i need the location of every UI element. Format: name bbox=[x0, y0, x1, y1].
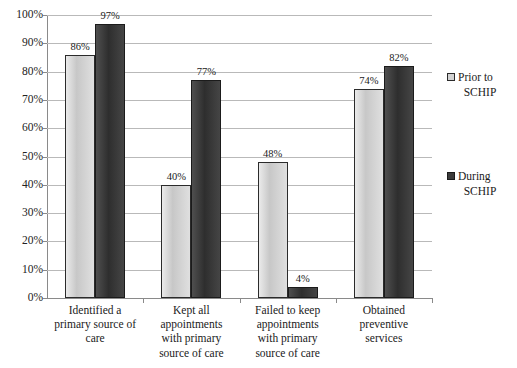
legend-label-line2: SCHIP bbox=[447, 85, 517, 100]
legend-label-line1: During bbox=[458, 170, 491, 182]
legend-label-line2: SCHIP bbox=[447, 184, 517, 199]
y-axis-tick bbox=[43, 270, 47, 271]
bar-during bbox=[191, 80, 221, 298]
y-axis-tick-label: 100% bbox=[3, 9, 43, 21]
y-axis-tick bbox=[43, 15, 47, 16]
legend-light-swatch-icon bbox=[447, 73, 455, 81]
y-axis-tick bbox=[43, 298, 47, 299]
plot-area: 86%97%40%77%48%4%74%82% bbox=[47, 15, 432, 298]
y-axis-tick bbox=[43, 43, 47, 44]
bar-value-label: 48% bbox=[250, 148, 296, 159]
y-axis-tick-label: 40% bbox=[3, 179, 43, 191]
x-axis-label-line: source of care bbox=[228, 346, 348, 360]
x-axis-label-line: preventive bbox=[324, 317, 444, 331]
legend-entry[interactable]: Prior toSCHIP bbox=[447, 70, 517, 99]
bar-chart: 0%10%20%30%40%50%60%70%80%90%100% 86%97%… bbox=[0, 0, 517, 368]
bar-prior bbox=[354, 89, 384, 298]
bar-prior bbox=[65, 55, 95, 298]
bar-value-label: 77% bbox=[183, 66, 229, 77]
y-axis-tick-label: 0% bbox=[3, 292, 43, 304]
x-axis-tick bbox=[432, 298, 433, 303]
y-axis-tick bbox=[43, 128, 47, 129]
y-axis-tick-label: 30% bbox=[3, 207, 43, 219]
legend-entry[interactable]: DuringSCHIP bbox=[447, 169, 517, 198]
bar-value-label: 97% bbox=[87, 10, 133, 21]
y-axis-tick bbox=[43, 100, 47, 101]
y-axis-tick bbox=[43, 72, 47, 73]
y-axis-tick bbox=[43, 157, 47, 158]
x-axis-category-label: Obtainedpreventiveservices bbox=[324, 303, 444, 346]
y-axis-tick-label: 60% bbox=[3, 122, 43, 134]
bar-during bbox=[384, 66, 414, 298]
y-axis-tick bbox=[43, 185, 47, 186]
legend-label-line1: Prior to bbox=[458, 71, 493, 83]
x-axis-label-line: services bbox=[324, 331, 444, 345]
y-axis-tick-label: 10% bbox=[3, 264, 43, 276]
bar-during bbox=[288, 287, 318, 298]
y-axis-labels: 0%10%20%30%40%50%60%70%80%90%100% bbox=[0, 15, 43, 299]
y-axis-tick-label: 20% bbox=[3, 235, 43, 247]
y-axis-tick-label: 90% bbox=[3, 37, 43, 49]
y-axis-tick-label: 50% bbox=[3, 151, 43, 163]
bar-value-label: 4% bbox=[280, 273, 326, 284]
x-axis-label-line: Obtained bbox=[324, 303, 444, 317]
bar-prior bbox=[161, 185, 191, 298]
y-axis-tick-label: 70% bbox=[3, 94, 43, 106]
y-axis-tick bbox=[43, 213, 47, 214]
bar-during bbox=[95, 24, 125, 299]
y-axis-tick-label: 80% bbox=[3, 66, 43, 78]
y-axis-tick bbox=[43, 241, 47, 242]
chart-legend: Prior toSCHIPDuringSCHIP bbox=[447, 70, 517, 198]
legend-dark-swatch-icon bbox=[447, 172, 455, 180]
bar-value-label: 82% bbox=[376, 52, 422, 63]
